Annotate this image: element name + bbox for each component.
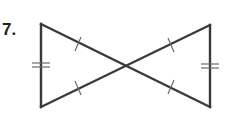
bowtie-triangles-figure: [0, 0, 227, 130]
